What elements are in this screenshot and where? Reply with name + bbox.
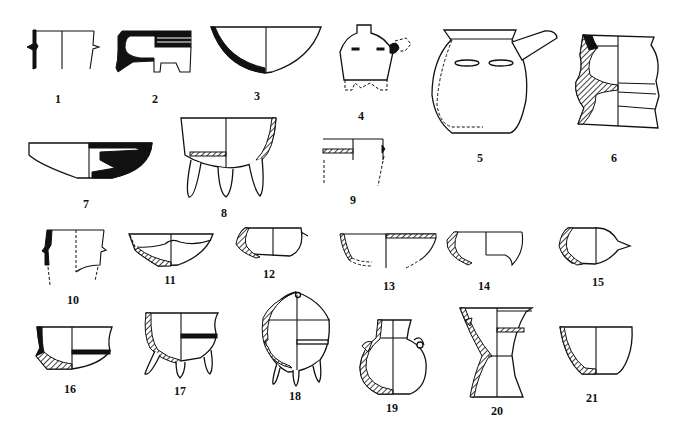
vessel-9	[323, 139, 385, 186]
vessel-4	[340, 25, 411, 90]
vessel-19	[360, 320, 426, 394]
vessel-18	[262, 292, 330, 386]
figure-label-15: 15	[592, 276, 604, 288]
figure-label-8: 8	[221, 207, 227, 219]
figure-label-9: 9	[350, 194, 356, 206]
figure-label-2: 2	[152, 93, 158, 105]
figure-label-3: 3	[254, 90, 260, 102]
figure-label-10: 10	[67, 294, 79, 306]
vessel-5	[432, 30, 557, 133]
figure-label-16: 16	[64, 383, 76, 395]
vessel-2	[116, 31, 191, 72]
vessel-6	[576, 35, 659, 128]
vessel-1	[27, 30, 99, 69]
vessel-16	[36, 327, 112, 369]
vessel-10	[42, 230, 106, 285]
vessel-17	[145, 313, 218, 378]
figure-label-13: 13	[383, 280, 395, 292]
vessel-11	[129, 234, 213, 266]
figure-label-4: 4	[358, 110, 364, 122]
vessel-13	[340, 234, 436, 268]
figure-label-18: 18	[289, 390, 301, 402]
pottery-plate: 1 2 3 4 5 6 7 8 9 10 11 12 13 14 15 16 1…	[0, 0, 683, 438]
figure-label-14: 14	[478, 280, 490, 292]
figure-label-11: 11	[164, 274, 175, 286]
vessel-7	[29, 143, 152, 178]
figure-label-5: 5	[477, 152, 483, 164]
vessel-8	[181, 118, 276, 197]
vessel-3	[211, 27, 321, 73]
vessel-drawings	[0, 0, 683, 438]
vessel-14	[447, 232, 523, 265]
figure-label-6: 6	[611, 152, 617, 164]
vessel-20	[460, 308, 532, 397]
vessel-21	[560, 327, 632, 374]
figure-label-12: 12	[263, 268, 275, 280]
vessel-15	[559, 227, 630, 265]
figure-label-21: 21	[586, 392, 598, 404]
figure-label-19: 19	[386, 402, 398, 414]
vessel-12	[236, 228, 308, 258]
figure-label-1: 1	[55, 93, 61, 105]
figure-label-7: 7	[83, 198, 89, 210]
figure-label-20: 20	[491, 405, 503, 417]
figure-label-17: 17	[174, 385, 186, 397]
